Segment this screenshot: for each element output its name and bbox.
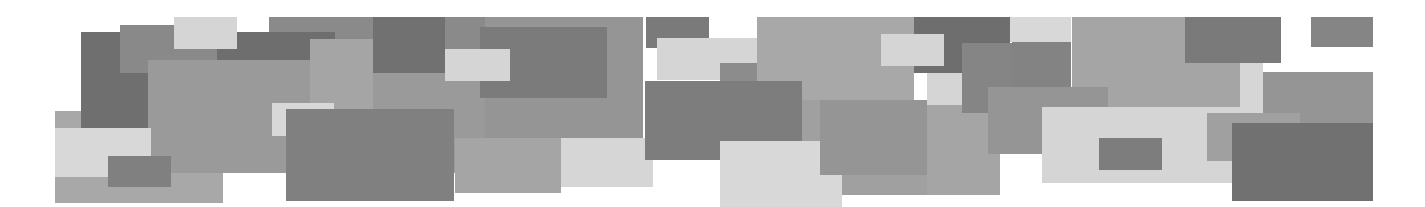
gray-rectangle [1012,42,1071,87]
gray-rectangle [1010,17,1071,42]
gray-rectangle [820,100,927,175]
gray-rectangle [561,138,653,187]
gray-rectangle [286,109,454,201]
gray-rectangle [373,17,445,73]
gray-rectangle [927,73,962,105]
gray-rectangle [720,63,757,81]
abstract-rectangle-composition [0,0,1425,207]
gray-rectangle [174,17,237,49]
gray-rectangle [881,34,944,66]
gray-rectangle [1185,17,1281,63]
gray-rectangle [455,138,561,193]
gray-rectangle [1099,138,1162,170]
gray-rectangle [108,156,171,187]
gray-rectangle [445,49,510,81]
gray-rectangle [1232,123,1373,201]
gray-rectangle [310,39,373,109]
gray-rectangle [1311,17,1373,47]
